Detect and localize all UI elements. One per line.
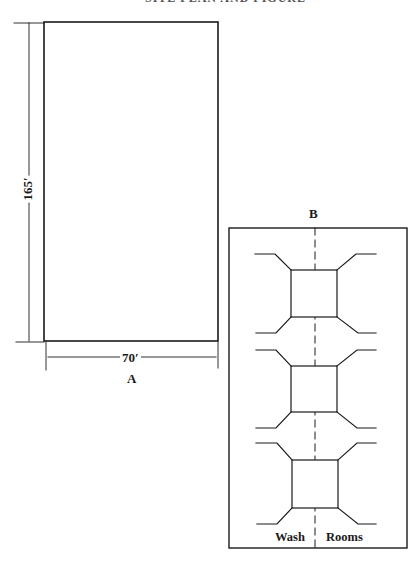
rooms-label: Rooms <box>326 531 363 544</box>
diagram-canvas <box>0 0 416 563</box>
figure-b-label: B <box>309 207 318 220</box>
site-plan-figure: SITE PLAN AND FIGURE 1 165′ 70′ A B Wash… <box>0 0 416 563</box>
width-dimension-label: 70′ <box>120 350 141 366</box>
wash-label: Wash <box>275 531 305 544</box>
figure-a-label: A <box>127 372 136 385</box>
height-dimension-label: 165′ <box>20 175 36 202</box>
page-header: SITE PLAN AND FIGURE 1 <box>145 0 305 6</box>
lot-a-rectangle <box>44 22 218 341</box>
